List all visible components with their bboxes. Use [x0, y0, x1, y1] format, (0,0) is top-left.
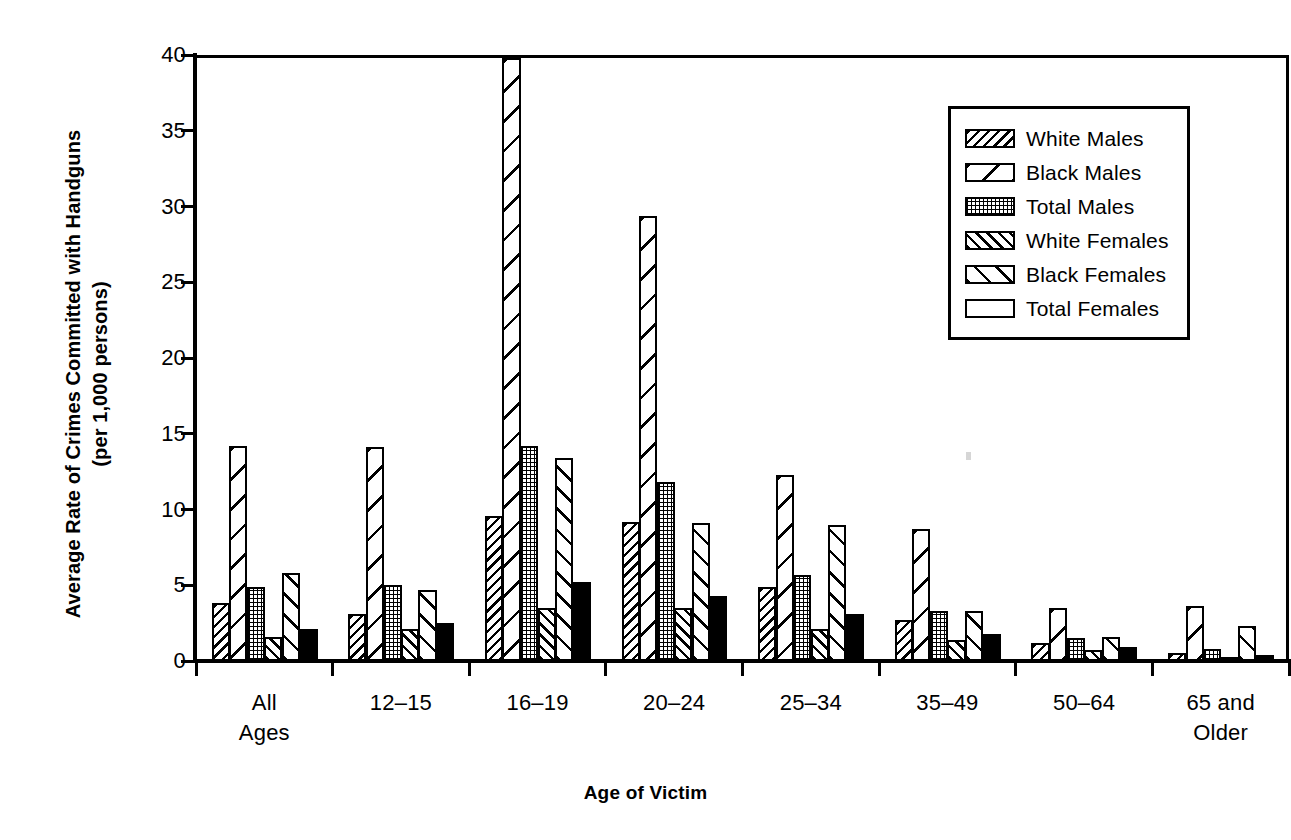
legend-item-label: White Females: [1026, 230, 1169, 251]
bar: [947, 640, 965, 661]
bar: [622, 522, 640, 661]
legend-swatch-icon: [965, 129, 1015, 148]
y-axis-title-line2: (per 1,000 persons): [87, 281, 114, 466]
x-axis-tick: [1151, 660, 1154, 676]
scan-artifact-speck: [966, 452, 971, 460]
legend: White MalesBlack MalesTotal MalesWhite F…: [948, 106, 1190, 340]
bar: [366, 447, 384, 661]
bar: [692, 523, 710, 661]
y-axis-tick-label: 35: [126, 120, 186, 142]
legend-item: Total Males: [965, 189, 1169, 223]
bar: [348, 614, 366, 661]
bar: [912, 529, 930, 661]
bar: [1203, 649, 1221, 661]
bar: [401, 629, 419, 661]
bar: [573, 582, 591, 661]
bar: [657, 482, 675, 661]
y-axis-tick-label: 0: [126, 650, 186, 672]
bar: [1168, 653, 1186, 661]
bar: [674, 608, 692, 661]
legend-swatch-icon: [965, 231, 1015, 250]
bar: [1084, 650, 1102, 661]
y-axis-title-line1: Average Rate of Crimes Committed with Ha…: [60, 130, 87, 618]
y-axis-tick-label: 10: [126, 499, 186, 521]
y-axis-tick-label: 15: [126, 423, 186, 445]
bar: [983, 634, 1001, 661]
y-axis-tick-label: 5: [126, 574, 186, 596]
legend-item-label: Total Males: [1026, 196, 1134, 217]
bar: [282, 573, 300, 661]
bar: [538, 608, 556, 661]
bar: [828, 525, 846, 661]
legend-swatch-icon: [965, 163, 1015, 182]
x-axis-tick: [604, 660, 607, 676]
bar: [247, 587, 265, 661]
y-axis-tick-label: 30: [126, 196, 186, 218]
x-axis-category-label: 16–19: [469, 688, 606, 718]
legend-item: White Females: [965, 223, 1169, 257]
bar-chart: Average Rate of Crimes Committed with Ha…: [0, 0, 1291, 840]
bar: [502, 58, 520, 661]
legend-swatch-icon: [965, 197, 1015, 216]
bar: [520, 446, 538, 661]
bar: [895, 620, 913, 661]
x-axis-category-label: 25–34: [743, 688, 880, 718]
legend-item-label: Total Females: [1026, 298, 1159, 319]
bar: [1238, 626, 1256, 661]
bar: [418, 590, 436, 661]
bar: [1186, 606, 1204, 661]
legend-item-label: White Males: [1026, 128, 1144, 149]
legend-item: Total Females: [965, 291, 1169, 325]
bar: [1049, 608, 1067, 661]
legend-item: Black Females: [965, 257, 1169, 291]
x-axis-title: Age of Victim: [0, 782, 1291, 804]
y-axis-tick-label: 40: [126, 44, 186, 66]
y-axis-tick-label: 25: [126, 271, 186, 293]
bar: [709, 596, 727, 661]
bar: [212, 603, 230, 661]
y-axis-tick-label: 20: [126, 347, 186, 369]
bar: [776, 475, 794, 661]
bar: [811, 629, 829, 661]
x-axis-category-label: 50–64: [1016, 688, 1153, 718]
legend-item: White Males: [965, 121, 1169, 155]
legend-swatch-icon: [965, 299, 1015, 318]
bar: [1031, 643, 1049, 661]
x-axis-tick: [741, 660, 744, 676]
x-axis-tick: [331, 660, 334, 676]
bar: [485, 516, 503, 661]
bar: [229, 446, 247, 661]
legend-swatch-icon: [965, 265, 1015, 284]
legend-item-label: Black Males: [1026, 162, 1141, 183]
x-axis-tick: [468, 660, 471, 676]
y-axis-title: Average Rate of Crimes Committed with Ha…: [57, 54, 117, 694]
x-axis-tick: [1288, 660, 1291, 676]
legend-item: Black Males: [965, 155, 1169, 189]
x-axis-category-label: 12–15: [333, 688, 470, 718]
bar: [793, 575, 811, 661]
x-axis-tick: [195, 660, 198, 676]
x-axis-tick: [878, 660, 881, 676]
x-axis-category-label: 20–24: [606, 688, 743, 718]
bar: [1256, 655, 1274, 661]
bar: [965, 611, 983, 661]
x-axis-category-label: All Ages: [196, 688, 333, 748]
x-axis-tick: [1014, 660, 1017, 676]
bar: [1102, 637, 1120, 661]
bar: [1221, 657, 1239, 661]
bar: [383, 585, 401, 661]
bar: [299, 629, 317, 661]
bar: [1119, 647, 1137, 661]
bar: [846, 614, 864, 661]
bar: [930, 611, 948, 661]
bar: [264, 637, 282, 661]
bar: [436, 623, 454, 661]
legend-item-label: Black Females: [1026, 264, 1166, 285]
bar: [758, 587, 776, 661]
bar: [639, 216, 657, 661]
x-axis-category-label: 65 and Older: [1152, 688, 1289, 748]
bar: [555, 458, 573, 661]
x-axis-category-label: 35–49: [879, 688, 1016, 718]
bar: [1067, 638, 1085, 661]
